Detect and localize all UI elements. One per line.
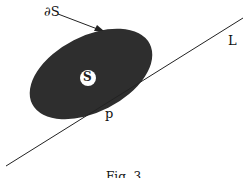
figure-caption: Fig. 3: [106, 170, 141, 178]
boundary-arrow-head: [94, 25, 104, 31]
boundary-arrow-shaft: [58, 14, 100, 30]
figure-canvas: [0, 0, 249, 178]
point-label: p: [105, 106, 113, 121]
line-label: L: [228, 33, 237, 48]
set-label: S: [83, 70, 92, 84]
boundary-label: ∂S: [44, 4, 60, 19]
